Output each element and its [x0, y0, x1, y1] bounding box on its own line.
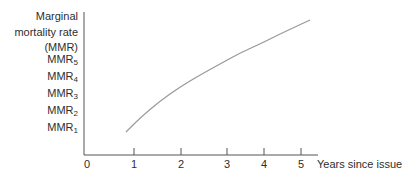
y-label-base: MMR	[47, 87, 73, 99]
y-label-subscript: 2	[74, 109, 78, 118]
y-label-base: MMR	[47, 104, 73, 116]
y-label-base: MMR	[47, 53, 73, 65]
x-axis-ticks	[134, 148, 301, 155]
y-axis-title-line-1: Marginal	[36, 10, 78, 23]
mmr-curve	[126, 20, 310, 132]
x-tick-label-0: 0	[84, 158, 90, 171]
y-label-base: MMR	[47, 121, 73, 133]
x-tick-label-3: 3	[224, 158, 230, 171]
y-label-mmr4: MMR4	[47, 70, 78, 83]
y-label-mmr2: MMR2	[47, 104, 78, 117]
y-label-subscript: 5	[74, 58, 78, 67]
y-label-subscript: 3	[74, 92, 78, 101]
x-tick-label-5: 5	[298, 158, 304, 171]
y-label-subscript: 4	[74, 75, 78, 84]
y-axis-title-line-2: mortality rate	[14, 26, 78, 39]
y-label-mmr5: MMR5	[47, 53, 78, 66]
y-label-mmr1: MMR1	[47, 121, 78, 134]
x-tick-label-1: 1	[131, 158, 137, 171]
y-label-subscript: 1	[74, 126, 78, 135]
y-label-mmr3: MMR3	[47, 87, 78, 100]
y-label-base: MMR	[47, 70, 73, 82]
x-axis-title: Years since issue	[317, 158, 402, 171]
x-tick-label-2: 2	[178, 158, 184, 171]
x-tick-label-4: 4	[261, 158, 267, 171]
